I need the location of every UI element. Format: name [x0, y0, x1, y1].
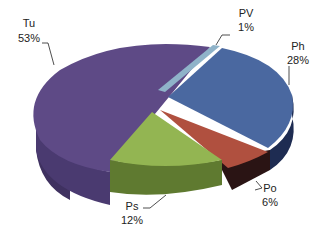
label-ps-pct: 12% — [117, 214, 147, 227]
label-tu: Tu 53% — [14, 17, 44, 45]
label-tu-pct: 53% — [14, 32, 44, 45]
label-po: Po 6% — [255, 182, 285, 209]
label-tu-name: Tu — [14, 17, 44, 30]
label-ph-pct: 28% — [283, 54, 313, 67]
leader-tu — [42, 43, 54, 65]
label-po-name: Po — [255, 182, 285, 195]
label-pv: PV 1% — [231, 7, 261, 34]
label-pv-pct: 1% — [231, 21, 261, 34]
label-ph-name: Ph — [283, 40, 313, 53]
label-ps: Ps 12% — [117, 200, 147, 227]
label-ph: Ph 28% — [283, 40, 313, 67]
leader-pv — [216, 35, 230, 45]
label-ps-name: Ps — [117, 200, 147, 213]
label-pv-name: PV — [231, 7, 261, 20]
label-po-pct: 6% — [255, 196, 285, 209]
